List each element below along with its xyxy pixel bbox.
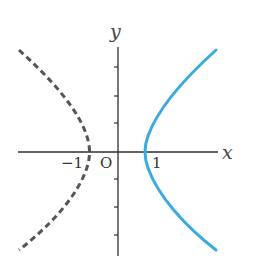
origin-label: O <box>100 154 112 172</box>
right-branch-curve <box>145 50 216 250</box>
tick-label-pos-one: 1 <box>152 154 162 172</box>
x-axis-label: x <box>222 141 233 163</box>
tick-label-neg-one: −1 <box>61 154 83 172</box>
left-branch-curve <box>19 50 90 250</box>
hyperbola-diagram: y x O −1 1 <box>0 0 258 266</box>
y-axis-label: y <box>109 20 121 42</box>
